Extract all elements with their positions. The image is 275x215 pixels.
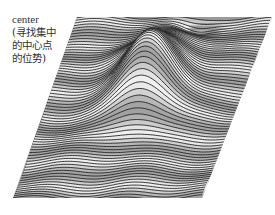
annotation-line-4: 的位势) <box>12 52 56 65</box>
annotation-line-2: (寻找集中 <box>12 26 56 39</box>
center-annotation: center (寻找集中 的中心点 的位势) <box>12 13 56 65</box>
annotation-line-3: 的中心点 <box>12 39 56 52</box>
annotation-line-1: center <box>12 13 56 26</box>
